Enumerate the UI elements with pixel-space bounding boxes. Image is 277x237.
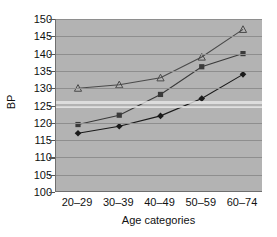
gridline — [56, 19, 262, 20]
y-tick-mark — [49, 192, 55, 193]
gridline — [56, 36, 262, 37]
x-axis-title: Age categories — [55, 214, 262, 226]
scan-artifact-band — [56, 101, 262, 104]
y-axis-tick-labels: 100105110115120125130135140145150 — [22, 0, 52, 237]
gridline — [56, 157, 262, 158]
y-axis-title: BP — [5, 82, 17, 122]
x-tick-label: 50–59 — [185, 196, 216, 208]
x-tick-label: 20–29 — [62, 196, 93, 208]
x-tick-label: 60–74 — [227, 196, 258, 208]
x-axis-tick-labels: 20–2930–3940–4950–5960–74 — [55, 196, 262, 212]
gridlines — [56, 19, 262, 191]
gridline — [56, 123, 262, 124]
bp-age-line-chart: BP 100105110115120125130135140145150 20–… — [0, 0, 277, 237]
x-tick-label: 30–39 — [103, 196, 134, 208]
x-tick-label: 40–49 — [144, 196, 175, 208]
scan-artifact-band-secondary — [56, 106, 262, 108]
gridline — [56, 88, 262, 89]
plot-area — [55, 19, 262, 192]
gridline — [56, 71, 262, 72]
gridline — [56, 140, 262, 141]
gridline — [56, 54, 262, 55]
gridline — [56, 175, 262, 176]
